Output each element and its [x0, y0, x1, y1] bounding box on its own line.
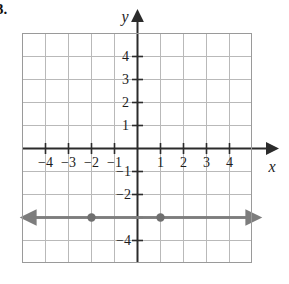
- y-tick-label-2: 2: [122, 95, 129, 110]
- x-tick-label--3: −3: [61, 155, 76, 170]
- y-tick-label-4: 4: [122, 49, 129, 64]
- y-axis-label: y: [119, 8, 129, 26]
- y-tick-label--4: −4: [116, 233, 131, 248]
- x-tick-label-3: 3: [203, 155, 210, 170]
- x-tick-label-4: 4: [226, 155, 233, 170]
- x-tick-label-2: 2: [180, 155, 187, 170]
- x-axis-label: x: [267, 158, 275, 175]
- x-tick-label--2: −2: [84, 155, 99, 170]
- coordinate-plane-figure: 3.: [0, 0, 289, 284]
- y-tick-label--2: −2: [116, 187, 131, 202]
- x-tick-label--4: −4: [38, 155, 53, 170]
- plot-point--2--3: [87, 213, 95, 221]
- problem-number-label: 3.: [0, 1, 7, 18]
- y-tick-label-3: 3: [122, 72, 129, 87]
- x-tick-label-1: 1: [157, 155, 164, 170]
- y-tick-label-1: 1: [122, 118, 129, 133]
- graph-svg: −4 −3 −2 −1 1 2 3 4 4 3 2 1 −1 −2 −4 y x: [0, 0, 289, 284]
- plot-point-1--3: [156, 213, 164, 221]
- y-tick-label--1: −1: [116, 164, 131, 179]
